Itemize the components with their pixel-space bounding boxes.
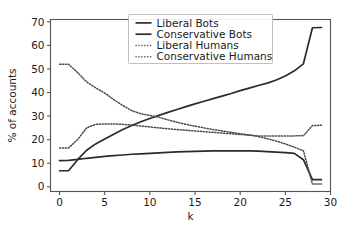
- legend-label-liberal-humans: Liberal Humans: [157, 39, 239, 51]
- series-line-conservative-bots: [60, 151, 322, 180]
- chart-figure: 051015202530010203040506070k% of account…: [0, 0, 346, 230]
- y-tick-label: 30: [31, 110, 44, 122]
- x-tick-label: 10: [143, 196, 156, 208]
- y-tick-label: 20: [31, 133, 44, 145]
- line-chart: 051015202530010203040506070k% of account…: [0, 0, 346, 230]
- y-tick-label: 40: [31, 86, 44, 98]
- x-tick-label: 0: [56, 196, 63, 208]
- x-axis-title: k: [187, 210, 194, 222]
- y-tick-label: 10: [31, 157, 44, 169]
- series-line-conservative-humans: [60, 124, 322, 148]
- y-tick-label: 50: [31, 63, 44, 75]
- x-tick-label: 25: [279, 196, 292, 208]
- legend-label-conservative-bots: Conservative Bots: [157, 28, 253, 40]
- legend-label-conservative-humans: Conservative Humans: [157, 50, 273, 62]
- x-tick-label: 20: [233, 196, 246, 208]
- x-tick-label: 15: [188, 196, 201, 208]
- y-axis-title: % of accounts: [6, 68, 18, 142]
- y-tick-label: 60: [31, 39, 44, 51]
- legend-label-liberal-bots: Liberal Bots: [157, 17, 219, 29]
- y-tick-label: 70: [31, 16, 44, 28]
- y-tick-label: 0: [38, 180, 45, 192]
- x-tick-label: 5: [101, 196, 108, 208]
- x-tick-label: 30: [324, 196, 337, 208]
